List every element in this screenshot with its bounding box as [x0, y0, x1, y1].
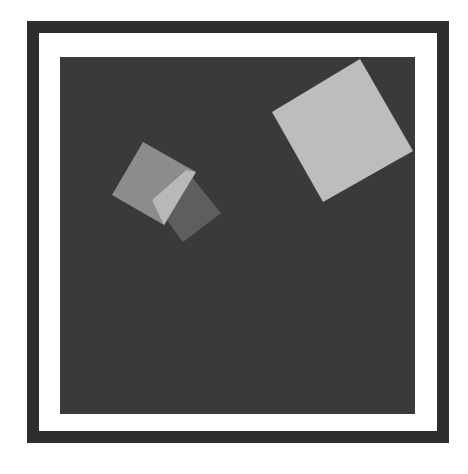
shapes-layer	[0, 0, 468, 474]
large-square	[272, 59, 413, 202]
